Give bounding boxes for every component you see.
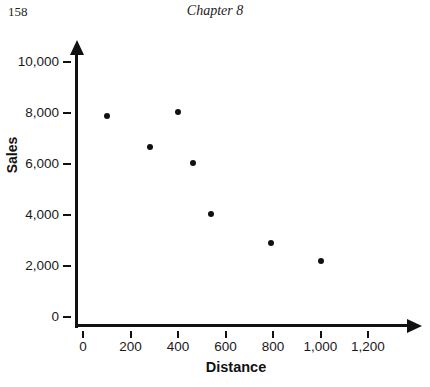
y-tick-label: 4,000 — [6, 207, 59, 223]
x-axis-line — [75, 324, 407, 327]
x-tick-mark — [82, 331, 84, 338]
data-point — [190, 160, 196, 166]
x-axis-arrow-icon — [407, 319, 422, 333]
x-tick-mark — [177, 331, 179, 338]
data-point — [104, 113, 110, 119]
y-tick-label: 8,000 — [6, 105, 59, 121]
y-tick-mark — [63, 316, 71, 318]
y-tick-mark — [63, 163, 71, 165]
y-axis-title: Sales — [4, 120, 22, 190]
y-tick-mark — [63, 265, 71, 267]
book-page: 158 Chapter 8 Sales Distance 02004006008… — [0, 0, 430, 387]
x-tick-mark — [272, 331, 274, 338]
y-tick-label: 6,000 — [6, 156, 59, 172]
y-tick-label: 2,000 — [6, 258, 59, 274]
x-tick-mark — [367, 331, 369, 338]
scatter-chart: Sales Distance 02004006008001,0001,20002… — [0, 0, 430, 387]
y-tick-mark — [63, 214, 71, 216]
y-axis-line — [75, 52, 78, 328]
data-point — [175, 109, 181, 115]
y-tick-label: 10,000 — [6, 54, 59, 70]
data-point — [208, 211, 214, 217]
y-tick-mark — [63, 61, 71, 63]
data-point — [318, 258, 324, 264]
y-tick-label: 0 — [6, 309, 59, 325]
y-tick-mark — [63, 112, 71, 114]
x-tick-mark — [320, 331, 322, 338]
x-tick-mark — [225, 331, 227, 338]
x-tick-label: 1,200 — [340, 339, 396, 354]
x-axis-title: Distance — [176, 359, 296, 375]
x-tick-mark — [130, 331, 132, 338]
data-point — [268, 240, 274, 246]
data-point — [147, 144, 153, 150]
